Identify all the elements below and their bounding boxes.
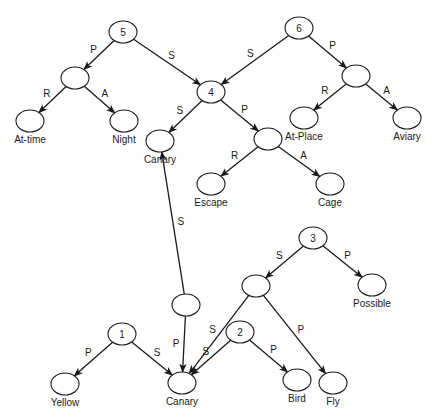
- node-circle: [316, 173, 344, 195]
- node-circle: [168, 372, 196, 394]
- node-atplace: At-Place: [285, 107, 323, 142]
- proposition-number: 3: [310, 233, 316, 244]
- node-cage: Cage: [316, 173, 344, 208]
- node-n5p: [61, 67, 89, 89]
- edge-label: S: [154, 347, 161, 358]
- node-circle: [342, 65, 370, 87]
- edge-label: S: [202, 346, 209, 357]
- edge-n4-canary_top: [169, 101, 202, 133]
- node-possible: Possible: [353, 274, 391, 309]
- node-circle: [51, 373, 79, 395]
- node-yellow: Yellow: [51, 373, 80, 408]
- edge-n4p-cage: [278, 146, 319, 176]
- edge-n3s-fly: [263, 295, 325, 373]
- concept-label: Aviary: [393, 131, 421, 142]
- edge-label: P: [173, 338, 180, 349]
- edge-label: A: [101, 88, 108, 99]
- concept-label: Canary: [166, 396, 198, 407]
- edge-n1-yellow: [74, 342, 112, 376]
- edge-label: A: [300, 150, 307, 161]
- node-n2: 2: [226, 321, 254, 343]
- node-n3s: [242, 275, 270, 297]
- edge-label: R: [43, 88, 50, 99]
- node-n5: 5: [109, 21, 137, 43]
- edge-label: A: [383, 85, 390, 96]
- node-n4p: [254, 128, 282, 150]
- node-aviary: Aviary: [393, 107, 421, 142]
- concept-label: Canary: [144, 154, 176, 165]
- node-nmid: [172, 294, 200, 316]
- node-fly: Fly: [319, 372, 347, 407]
- node-escape: Escape: [194, 173, 228, 208]
- edge-label: R: [321, 85, 328, 96]
- concept-label: Escape: [194, 197, 228, 208]
- node-n6: 6: [285, 17, 313, 39]
- node-circle: [110, 110, 138, 132]
- node-circle: [146, 130, 174, 152]
- node-n3: 3: [299, 227, 327, 249]
- edge-n5-n5p: [84, 41, 114, 70]
- node-canary_bottom: Canary: [166, 372, 198, 407]
- concept-label: Cage: [318, 197, 342, 208]
- nodes-layer: 56At-timeNight4CanaryAt-PlaceAviaryEscap…: [14, 17, 421, 408]
- edge-n6-n4: [221, 35, 288, 84]
- edge-label: P: [85, 347, 92, 358]
- concept-label: Possible: [353, 298, 391, 309]
- proposition-number: 5: [120, 27, 126, 38]
- edge-label: P: [297, 324, 304, 335]
- node-bird: Bird: [283, 369, 311, 404]
- edge-n6p-atplace: [314, 84, 346, 110]
- edge-label: P: [241, 104, 248, 115]
- node-circle: [358, 274, 386, 296]
- node-n1: 1: [108, 323, 136, 345]
- semantic-network-diagram: PSRASPRASPRASPSPSPPSSP 56At-timeNight4Ca…: [0, 0, 436, 420]
- concept-label: Fly: [326, 396, 339, 407]
- edge-label: P: [270, 344, 277, 355]
- node-circle: [172, 294, 200, 316]
- proposition-number: 4: [208, 87, 214, 98]
- node-circle: [290, 107, 318, 129]
- edge-n3-n3s: [266, 246, 304, 278]
- concept-label: At-Place: [285, 131, 323, 142]
- edge-n3-possible: [323, 246, 362, 277]
- node-circle: [61, 67, 89, 89]
- node-circle: [393, 107, 421, 129]
- proposition-number: 6: [296, 23, 302, 34]
- edge-label: S: [177, 105, 184, 116]
- edge-n4p-escape: [221, 147, 258, 176]
- edge-n5p-night: [84, 86, 114, 113]
- node-circle: [254, 128, 282, 150]
- edge-n2-bird: [250, 340, 288, 372]
- edge-label: P: [344, 250, 351, 261]
- edge-label: P: [329, 40, 336, 51]
- node-circle: [242, 275, 270, 297]
- edge-nmid-canary_bottom: [183, 316, 186, 372]
- edge-label: S: [247, 48, 254, 59]
- concept-label: At-time: [14, 134, 46, 145]
- edge-label: S: [209, 324, 216, 335]
- node-circle: [283, 369, 311, 391]
- edge-n4-n4p: [221, 100, 259, 131]
- edge-label: S: [168, 50, 175, 61]
- edge-n1-canary_bottom: [132, 342, 173, 375]
- concept-label: Bird: [288, 393, 306, 404]
- edge-n6p-aviary: [366, 84, 398, 110]
- edge-label: S: [178, 216, 185, 227]
- edge-label: S: [276, 250, 283, 261]
- proposition-number: 1: [119, 329, 125, 340]
- node-n4: 4: [197, 81, 225, 103]
- node-circle: [16, 110, 44, 132]
- proposition-number: 2: [237, 327, 243, 338]
- node-canary_top: Canary: [144, 130, 176, 165]
- node-night: Night: [110, 110, 138, 145]
- node-n6p: [342, 65, 370, 87]
- node-circle: [197, 173, 225, 195]
- node-circle: [319, 372, 347, 394]
- edge-n6-n6p: [309, 36, 347, 68]
- edge-label: R: [231, 150, 238, 161]
- edge-label: P: [90, 44, 97, 55]
- concept-label: Yellow: [51, 397, 80, 408]
- edge-n5-n4: [134, 39, 201, 85]
- node-attime: At-time: [14, 110, 46, 145]
- concept-label: Night: [112, 134, 136, 145]
